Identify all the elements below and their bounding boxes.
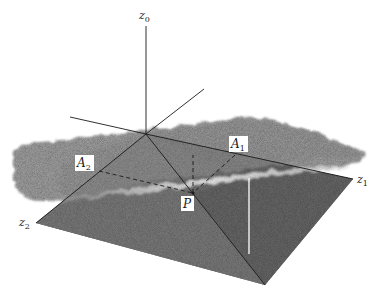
point-P-marker xyxy=(191,191,194,194)
label-z1: z1 xyxy=(356,173,368,188)
axis-back-left xyxy=(70,117,146,134)
label-z2: z2 xyxy=(18,216,30,231)
label-z0: z0 xyxy=(138,9,150,24)
label-P: P xyxy=(182,197,192,211)
simplex-diagram: z0 z1 z2 A1 A2 P xyxy=(0,0,382,299)
